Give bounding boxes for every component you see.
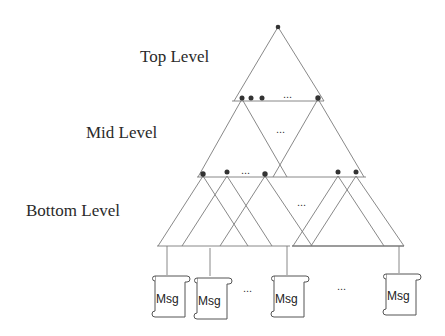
mid-base-ellipsis: ... [241,164,250,176]
root-node [276,25,281,30]
mid-node [200,171,205,176]
msg-ellipsis-2: ... [337,280,346,292]
top-node [249,96,254,101]
message-label: Msg [156,292,179,306]
mid-node [225,170,230,175]
bottom-level-trees [157,176,404,246]
mid-node [354,170,359,175]
top-ellipsis: ... [283,88,292,100]
message-label: Msg [387,289,410,303]
mid-node [336,170,341,175]
msg-ellipsis-1: ... [243,282,252,294]
message-label: Msg [275,292,298,306]
message-label: Msg [198,294,221,308]
mid-ellipsis: ... [276,123,285,135]
mid-node [262,171,267,176]
bottom-ellipsis: ... [297,196,306,208]
mid-level-trees [197,99,366,177]
hierarchy-diagram: ... ... ... ... ... ... Msg Msg Msg Msg [0,0,445,336]
message-connectors [167,246,399,276]
top-node [240,96,245,101]
top-node [315,95,320,100]
top-level-tree [232,27,324,101]
top-node [260,96,265,101]
